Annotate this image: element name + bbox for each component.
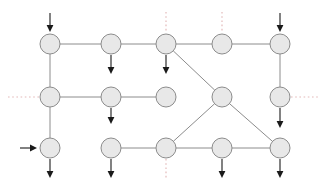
graph-node[interactable] bbox=[101, 34, 121, 54]
graph-node[interactable] bbox=[40, 34, 60, 54]
arrow-head-icon bbox=[108, 171, 115, 178]
arrow-head-icon bbox=[30, 145, 37, 152]
arrow-head-icon bbox=[108, 117, 115, 124]
graph-node[interactable] bbox=[40, 87, 60, 107]
graph-node[interactable] bbox=[212, 138, 232, 158]
arrow-head-icon bbox=[163, 67, 170, 74]
arrow-head-icon bbox=[47, 171, 54, 178]
graph-node[interactable] bbox=[101, 138, 121, 158]
arrow-head-icon bbox=[47, 25, 54, 32]
graph-node[interactable] bbox=[101, 87, 121, 107]
node-circle[interactable] bbox=[40, 138, 60, 158]
node-circle[interactable] bbox=[212, 138, 232, 158]
arrow-head-icon bbox=[277, 25, 284, 32]
graph-node[interactable] bbox=[156, 138, 176, 158]
node-circle[interactable] bbox=[270, 34, 290, 54]
node-layer bbox=[40, 34, 290, 158]
node-circle[interactable] bbox=[101, 87, 121, 107]
node-circle[interactable] bbox=[156, 87, 176, 107]
network-diagram bbox=[0, 0, 326, 186]
edge-line bbox=[173, 51, 214, 90]
node-circle[interactable] bbox=[270, 87, 290, 107]
edge-line bbox=[173, 104, 214, 142]
arrow-head-icon bbox=[108, 67, 115, 74]
node-circle[interactable] bbox=[101, 34, 121, 54]
diagram-canvas bbox=[0, 0, 326, 186]
graph-node[interactable] bbox=[40, 138, 60, 158]
node-circle[interactable] bbox=[270, 138, 290, 158]
graph-node[interactable] bbox=[212, 87, 232, 107]
node-circle[interactable] bbox=[156, 34, 176, 54]
graph-node[interactable] bbox=[270, 138, 290, 158]
graph-node[interactable] bbox=[156, 34, 176, 54]
arrow-head-icon bbox=[277, 121, 284, 128]
arrow-head-icon bbox=[277, 171, 284, 178]
node-circle[interactable] bbox=[212, 87, 232, 107]
edge-line bbox=[230, 104, 273, 142]
node-circle[interactable] bbox=[212, 34, 232, 54]
arrow-head-icon bbox=[219, 171, 226, 178]
node-circle[interactable] bbox=[40, 87, 60, 107]
graph-node[interactable] bbox=[156, 87, 176, 107]
graph-node[interactable] bbox=[270, 34, 290, 54]
node-circle[interactable] bbox=[101, 138, 121, 158]
node-circle[interactable] bbox=[156, 138, 176, 158]
node-circle[interactable] bbox=[40, 34, 60, 54]
graph-node[interactable] bbox=[212, 34, 232, 54]
graph-node[interactable] bbox=[270, 87, 290, 107]
